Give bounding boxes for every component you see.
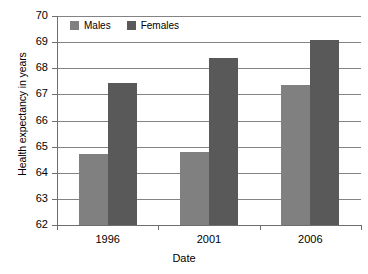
y-tick-label: 67 [22,87,48,99]
bars-layer [57,16,361,225]
bar-males-2001 [180,152,209,225]
bar-males-1996 [79,154,108,225]
y-tick-label: 70 [22,9,48,21]
chart-legend: MalesFemales [70,20,179,31]
y-tick-label: 62 [22,218,48,230]
x-axis-title: Date [0,252,368,264]
legend-item-females: Females [127,20,179,31]
x-tick-mark [260,225,261,230]
grid-line [58,225,361,226]
x-tick-mark [361,225,362,230]
legend-item-males: Males [70,20,111,31]
bar-males-2006 [281,85,310,225]
bar-chart: Health expectancy in years 7069686766656… [0,0,368,274]
legend-label: Males [84,20,111,31]
y-tick-label: 68 [22,61,48,73]
bar-females-2001 [209,58,238,225]
x-tick-label-2006: 2006 [280,233,340,245]
y-tick-label: 69 [22,35,48,47]
y-tick-label: 64 [22,166,48,178]
bar-females-2006 [310,40,339,225]
x-tick-mark [158,225,159,230]
x-tick-label-1996: 1996 [78,233,138,245]
females-swatch-icon [127,21,136,30]
x-tick-label-2001: 2001 [179,233,239,245]
y-tick-label: 63 [22,192,48,204]
males-swatch-icon [70,21,79,30]
legend-label: Females [141,20,179,31]
y-tick-label: 66 [22,114,48,126]
y-tick-label: 65 [22,140,48,152]
x-tick-mark [57,225,58,230]
bar-females-1996 [108,83,137,225]
